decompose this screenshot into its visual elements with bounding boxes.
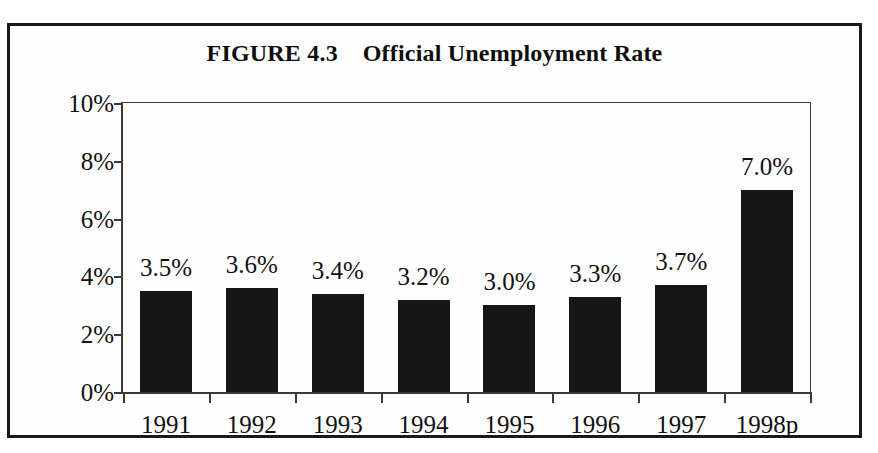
y-axis-tick-label: 0% [81,380,114,405]
y-axis-tick [114,161,123,163]
x-axis-category-label-1993: 1993 [313,412,363,437]
y-axis-tick-label: 2% [81,322,114,347]
x-axis-tick [381,392,383,403]
bar-value-label-1995: 3.0% [483,269,535,294]
x-axis-tick [209,392,211,403]
x-axis-category-label-1997: 1997 [656,412,706,437]
y-axis-tick-label: 10% [68,91,114,116]
x-axis-category-label-1991: 1991 [141,412,191,437]
x-axis-category-label-1998p: 1998p [736,412,799,437]
bar-1994 [398,300,450,392]
bar-1996 [569,297,621,392]
bar-1995 [483,305,535,392]
bar-value-label-1998p: 7.0% [741,154,793,179]
plot-wrapper: 0%2%4%6%8%10%3.5%19913.6%19923.4%19933.2… [10,26,859,435]
y-axis-tick [114,392,123,394]
bar-value-label-1993: 3.4% [312,258,364,283]
figure-root: FIGURE 4.3 Official Unemployment Rate 0%… [0,0,878,453]
x-axis-tick [810,392,812,403]
x-axis-tick [724,392,726,403]
x-axis-tick [295,392,297,403]
x-axis-category-label-1994: 1994 [399,412,449,437]
bar-1991 [140,291,192,392]
y-axis-tick-label: 8% [81,148,114,173]
y-axis-tick-label: 6% [81,206,114,231]
bar-value-label-1992: 3.6% [226,252,278,277]
figure-border: FIGURE 4.3 Official Unemployment Rate 0%… [7,23,862,438]
x-axis-tick [123,392,125,403]
plot-area: 0%2%4%6%8%10%3.5%19913.6%19923.4%19933.2… [121,102,811,394]
y-axis-tick [114,276,123,278]
y-axis-tick [114,103,123,105]
y-axis-tick [114,219,123,221]
x-axis-tick [638,392,640,403]
bar-1993 [312,294,364,392]
bar-1992 [226,288,278,392]
bar-1998p [741,190,793,392]
x-axis-category-label-1992: 1992 [227,412,277,437]
bar-value-label-1991: 3.5% [140,255,192,280]
x-axis-category-label-1996: 1996 [570,412,620,437]
y-axis-tick-label: 4% [81,264,114,289]
bar-value-label-1997: 3.7% [655,249,707,274]
x-axis-category-label-1995: 1995 [484,412,534,437]
bar-value-label-1994: 3.2% [398,264,450,289]
bar-value-label-1996: 3.3% [569,261,621,286]
x-axis-tick [552,392,554,403]
y-axis-tick [114,334,123,336]
x-axis-tick [467,392,469,403]
bar-1997 [655,285,707,392]
